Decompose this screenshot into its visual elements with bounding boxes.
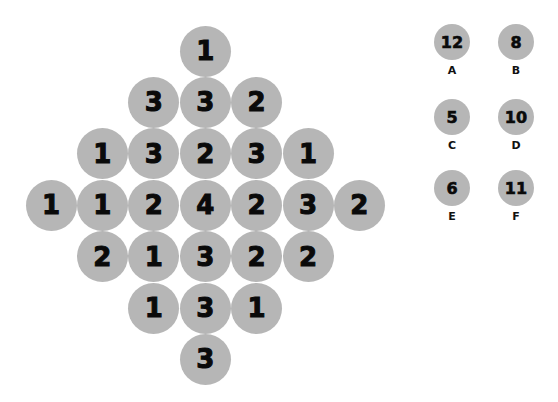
grid-cell: 2	[334, 180, 385, 231]
option-b[interactable]: 8B	[491, 24, 541, 77]
grid-cell: 1	[231, 283, 282, 334]
option-label: D	[491, 139, 541, 152]
grid-cell: 2	[231, 231, 282, 282]
option-label: E	[427, 210, 477, 223]
option-label: F	[491, 210, 541, 223]
grid-cell: 3	[180, 77, 231, 128]
option-value: 5	[434, 99, 470, 135]
option-label: A	[427, 64, 477, 77]
grid-cell: 2	[128, 180, 179, 231]
option-value: 10	[498, 99, 534, 135]
option-d[interactable]: 10D	[491, 99, 541, 152]
option-e[interactable]: 6E	[427, 170, 477, 223]
grid-cell: 3	[128, 128, 179, 179]
option-a[interactable]: 12A	[427, 24, 477, 77]
grid-cell: 1	[180, 26, 231, 77]
option-value: 6	[434, 170, 470, 206]
grid-cell: 1	[77, 128, 128, 179]
grid-cell: 1	[77, 180, 128, 231]
answer-options: 12A8B5C10D6E11F	[420, 0, 558, 402]
option-f[interactable]: 11F	[491, 170, 541, 223]
option-label: C	[427, 139, 477, 152]
grid-cell: 2	[180, 128, 231, 179]
number-diamond-grid: 1332132311124232213221313	[0, 0, 420, 402]
grid-cell: 3	[180, 283, 231, 334]
grid-cell: 2	[283, 231, 334, 282]
grid-cell: 3	[231, 128, 282, 179]
grid-cell: 1	[26, 180, 77, 231]
grid-cell: 4	[180, 180, 231, 231]
grid-cell: 1	[128, 283, 179, 334]
grid-cell: 2	[77, 231, 128, 282]
grid-cell: 3	[283, 180, 334, 231]
option-value: 11	[498, 170, 534, 206]
option-c[interactable]: 5C	[427, 99, 477, 152]
grid-cell: 3	[128, 77, 179, 128]
option-label: B	[491, 64, 541, 77]
grid-cell: 2	[231, 77, 282, 128]
grid-cell: 3	[180, 334, 231, 385]
grid-cell: 1	[283, 128, 334, 179]
option-value: 8	[498, 24, 534, 60]
option-value: 12	[434, 24, 470, 60]
grid-cell: 3	[180, 231, 231, 282]
grid-cell: 1	[128, 231, 179, 282]
grid-cell: 2	[231, 180, 282, 231]
